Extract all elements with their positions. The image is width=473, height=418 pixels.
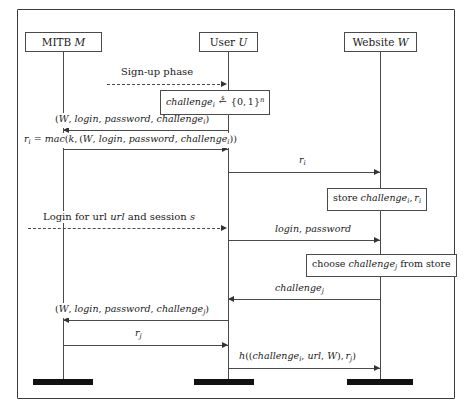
note-challenge-generation: challengei $← {0, 1}n	[160, 90, 270, 115]
message-label-login-request: (W, login, password, challengej)	[53, 303, 211, 318]
message-arrowhead-credentials	[374, 237, 380, 243]
actor-label-website: Website W	[352, 36, 408, 48]
terminator-website	[347, 379, 413, 385]
message-line-ri-to-website	[228, 172, 380, 173]
message-arrowhead-challenge-j	[228, 296, 234, 302]
note-store-challenge-label: store challengei, ri	[333, 192, 421, 203]
phase-dashed-line-login	[28, 228, 220, 229]
note-store-challenge: store challengei, ri	[327, 188, 427, 211]
terminator-user	[194, 379, 254, 385]
message-line-login-request	[63, 320, 228, 321]
message-label-credentials: login, password	[273, 223, 353, 235]
phase-dashed-line-signup	[107, 84, 220, 85]
message-line-credentials	[228, 240, 380, 241]
actor-header-website: Website W	[344, 32, 417, 52]
terminator-mitb	[33, 379, 93, 385]
note-choose-challenge-label: choose challengej from store	[312, 258, 451, 269]
actor-label-mitb: MITB M	[42, 36, 86, 48]
message-label-signup-request: (W, login, password, challengei)	[53, 113, 211, 128]
note-challenge-generation-label: challengei $← {0, 1}n	[166, 96, 264, 107]
message-line-challenge-j	[228, 299, 380, 300]
message-line-hash-response	[228, 368, 380, 369]
message-arrowhead-hash-response	[374, 365, 380, 371]
message-arrowhead-ri-to-website	[374, 169, 380, 175]
phase-label-login: Login for url url and session s	[40, 211, 198, 223]
actor-header-user: User U	[199, 32, 258, 52]
message-line-signup-request	[63, 130, 228, 131]
message-label-hash-response: h((challengei, url, W), rj)	[237, 350, 358, 365]
message-label-rj-response: rj	[133, 327, 144, 342]
phase-label-signup: Sign-up phase	[118, 66, 196, 78]
message-line-mac-response	[63, 149, 228, 150]
lifeline-website	[380, 52, 381, 382]
actor-label-user: User U	[210, 36, 248, 48]
phase-arrowhead-login	[221, 225, 227, 231]
sequence-diagram-canvas: MITB M User U Website W Sign-up phase ch…	[0, 0, 473, 418]
note-choose-challenge: choose challengej from store	[306, 254, 457, 277]
phase-arrowhead-signup	[221, 81, 227, 87]
actor-header-mitb: MITB M	[25, 32, 102, 52]
message-label-ri-to-website: ri	[297, 154, 308, 169]
message-label-challenge-j: challengej	[273, 282, 326, 297]
message-arrowhead-rj-response	[222, 342, 228, 348]
formula-mac-computation: ri = mac(k, (W, login, password, challen…	[22, 133, 239, 148]
message-line-rj-response	[63, 345, 228, 346]
